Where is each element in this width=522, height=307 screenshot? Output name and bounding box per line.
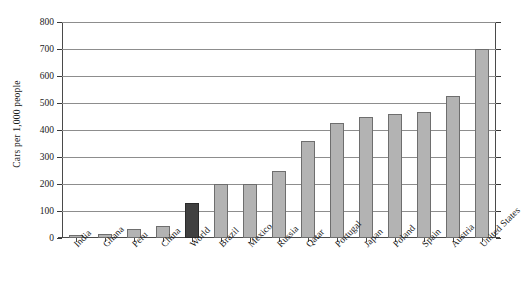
y-axis-tick-label: 200: [40, 179, 54, 189]
y-axis-tick-mark: [57, 76, 62, 77]
y-axis-tick-mark-right: [496, 157, 501, 158]
gridline: [62, 157, 496, 158]
y-axis-tick-mark: [57, 211, 62, 212]
y-axis-tick-mark: [57, 49, 62, 50]
y-axis-tick-mark: [57, 184, 62, 185]
bar: [417, 112, 431, 238]
y-axis-tick-mark: [57, 130, 62, 131]
y-axis-tick-mark: [57, 103, 62, 104]
y-axis-tick-label: 700: [40, 44, 54, 54]
y-axis-tick-mark-right: [496, 238, 501, 239]
bar: [330, 123, 344, 238]
y-axis-tick-mark-right: [496, 184, 501, 185]
y-axis-tick-label: 0: [49, 233, 54, 243]
y-axis-tick-label: 800: [40, 17, 54, 27]
y-axis-tick-mark-right: [496, 22, 501, 23]
gridline: [62, 22, 496, 23]
bar: [359, 117, 373, 239]
y-axis-tick-label: 600: [40, 71, 54, 81]
plot-area: 0100200300400500600700800: [62, 22, 496, 238]
y-axis-tick-label: 400: [40, 125, 54, 135]
y-axis-tick-label: 100: [40, 206, 54, 216]
y-axis-tick-mark-right: [496, 103, 501, 104]
bar: [388, 114, 402, 238]
y-axis-tick-mark-right: [496, 130, 501, 131]
bar: [446, 96, 460, 238]
bar: [214, 184, 228, 238]
y-axis-tick-mark-right: [496, 49, 501, 50]
y-axis-tick-mark: [57, 238, 62, 239]
y-axis-tick-mark: [57, 22, 62, 23]
y-axis-tick-label: 500: [40, 98, 54, 108]
y-axis-tick-mark: [57, 157, 62, 158]
y-axis-tick-mark-right: [496, 211, 501, 212]
gridline: [62, 49, 496, 50]
bar: [301, 141, 315, 238]
gridline: [62, 103, 496, 104]
gridline: [62, 130, 496, 131]
bar: [243, 184, 257, 238]
bar: [475, 49, 489, 238]
y-axis-title: Cars per 1,000 people: [12, 4, 28, 244]
gridline: [62, 76, 496, 77]
y-axis-tick-mark-right: [496, 76, 501, 77]
y-axis-tick-label: 300: [40, 152, 54, 162]
